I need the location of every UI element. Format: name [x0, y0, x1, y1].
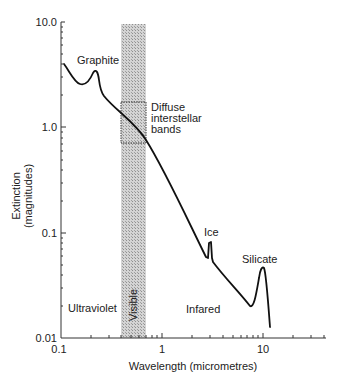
- visible-label: Visible: [127, 289, 139, 321]
- x-tick-1: 1: [159, 343, 165, 355]
- extinction-chart: 10.0 1.0 0.1 0.01 0.1 1 10 Wavelength (m…: [0, 0, 338, 377]
- y-tick-1: 1.0: [42, 121, 57, 133]
- x-axis-title: Wavelength (micrometres): [129, 360, 258, 372]
- x-tick-10: 10: [257, 343, 269, 355]
- x-tick-0.1: 0.1: [51, 343, 66, 355]
- y-axis: [61, 22, 66, 338]
- x-axis: [61, 333, 326, 338]
- y-tick-0.1: 0.1: [42, 227, 57, 239]
- y-tick-10: 10.0: [36, 16, 57, 28]
- dib-label-line3: bands: [151, 123, 181, 135]
- ultraviolet-label: Ultraviolet: [68, 302, 117, 314]
- silicate-label: Silicate: [242, 253, 277, 265]
- graphite-label: Graphite: [77, 54, 119, 66]
- y-axis-title-line1: Extinction: [10, 172, 22, 220]
- y-axis-title-line2: (magnitudes): [22, 164, 34, 228]
- ice-label: Ice: [204, 226, 219, 238]
- infrared-label: Infared: [186, 303, 220, 315]
